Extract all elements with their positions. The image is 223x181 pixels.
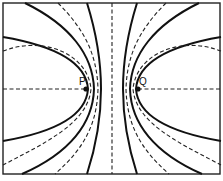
point-q-dot <box>135 86 140 91</box>
point-q-label: Q <box>139 76 147 87</box>
point-p-label: P <box>79 76 86 87</box>
field-diagram: P Q <box>0 0 223 181</box>
left-outer-dashed-curve <box>3 45 91 165</box>
right-outer-dashed-curve <box>133 45 221 165</box>
point-p-dot <box>83 86 88 91</box>
